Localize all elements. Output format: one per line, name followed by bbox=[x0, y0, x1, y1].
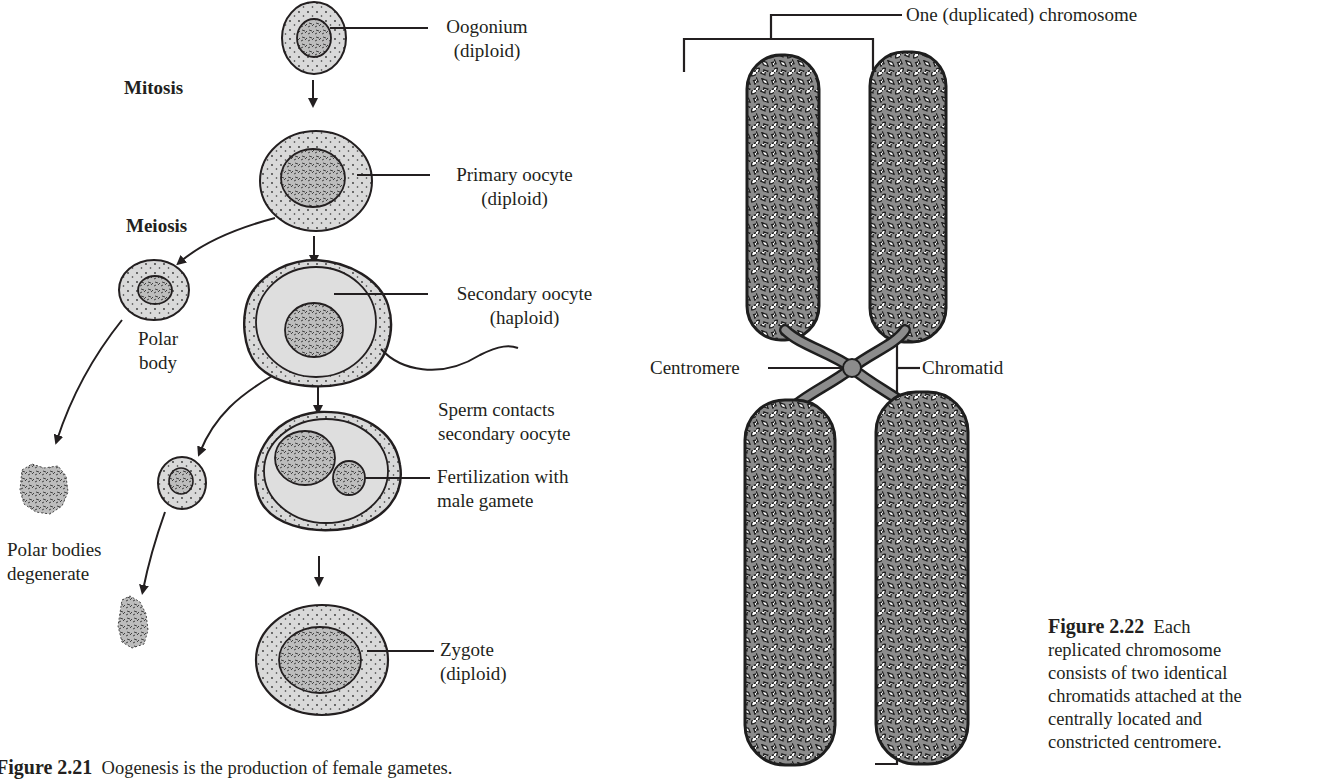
figure-2-21-caption: Figure 2.21 Oogenesis is the production … bbox=[0, 756, 452, 780]
polar-body-label: Polar body bbox=[133, 327, 183, 375]
primary-oocyte-label: Primary oocyte (diploid) bbox=[437, 163, 592, 211]
polar-body-cell bbox=[119, 260, 189, 320]
primary-oocyte-cell bbox=[260, 131, 372, 231]
polar-bodies-degenerate-label: Polar bodies degenerate bbox=[7, 538, 101, 586]
secondary-oocyte-label: Secondary oocyte (haploid) bbox=[437, 282, 612, 330]
figure-2-21-caption-label: Figure 2.21 bbox=[0, 756, 92, 778]
fertilization-cell bbox=[255, 412, 400, 530]
degenerate-polar-body-1 bbox=[20, 464, 68, 514]
meiosis-label: Meiosis bbox=[126, 214, 187, 238]
figure-2-22-caption-label: Figure 2.22 bbox=[1048, 615, 1144, 637]
secondary-oocyte-cell bbox=[244, 260, 391, 386]
fertilization-label: Fertilization with male gamete bbox=[437, 465, 568, 513]
sperm-contacts-label: Sperm contacts secondary oocyte bbox=[438, 398, 570, 446]
duplicated-chromosome-label: One (duplicated) chromosome bbox=[906, 3, 1137, 27]
polar-body-2-cell bbox=[158, 457, 206, 509]
degenerate-polar-body-2 bbox=[118, 596, 148, 648]
sperm bbox=[381, 346, 518, 370]
zygote-label: Zygote (diploid) bbox=[440, 638, 507, 686]
centromere-label: Centromere bbox=[650, 356, 740, 380]
zygote-cell bbox=[256, 605, 388, 715]
chromosome bbox=[745, 52, 968, 765]
mitosis-label: Mitosis bbox=[124, 76, 183, 100]
figure-2-21-caption-text: Oogenesis is the production of female ga… bbox=[102, 758, 453, 778]
oogonium-label: Oogonium (diploid) bbox=[432, 15, 542, 63]
chromatid-label: Chromatid bbox=[922, 356, 1003, 380]
oogonium-cell bbox=[282, 2, 346, 74]
figure-2-22-caption: Figure 2.22 Each replicated chromosome c… bbox=[1048, 615, 1331, 754]
